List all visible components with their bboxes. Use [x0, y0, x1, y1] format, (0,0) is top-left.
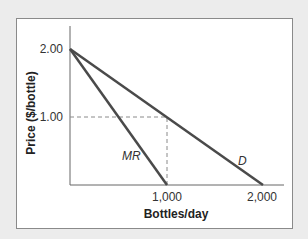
y-axis-title: Price ($/bottle) — [24, 71, 38, 154]
d-curve-label: D — [238, 154, 247, 168]
x-axis-title: Bottles/day — [144, 207, 209, 221]
y-tick-label-2: 2.00 — [40, 42, 64, 56]
chart: 2.00 1.00 1,000 2,000 Bottles/day Price … — [0, 0, 308, 239]
y-tick-label-1: 1.00 — [40, 110, 64, 124]
price-quantity-reference-line — [70, 117, 167, 185]
x-tick-label-1000: 1,000 — [152, 190, 182, 204]
x-tick-label-2000: 2,000 — [247, 190, 277, 204]
mr-curve-label: MR — [122, 149, 141, 163]
